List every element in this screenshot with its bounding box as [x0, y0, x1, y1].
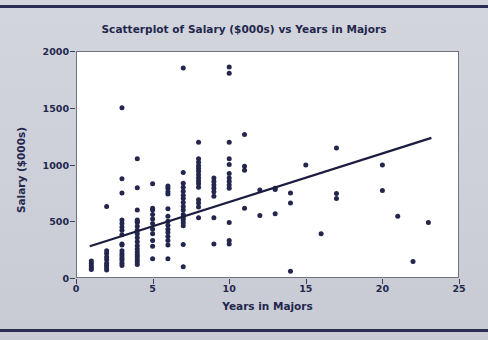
scatter-point	[181, 242, 186, 247]
scatter-point	[89, 267, 94, 272]
scatter-point	[242, 206, 247, 211]
scatter-point	[150, 206, 155, 211]
y-tick-label: 0	[29, 273, 69, 284]
scatter-point	[150, 244, 155, 249]
scatter-point	[303, 163, 308, 168]
scatter-point	[227, 220, 232, 225]
scatter-point	[104, 248, 109, 253]
y-tick-mark	[70, 51, 75, 52]
x-tick-mark	[306, 279, 307, 284]
scatter-point	[227, 176, 232, 181]
scatter-point	[395, 214, 400, 219]
x-tick-mark	[76, 279, 77, 284]
scatter-point	[181, 264, 186, 269]
scatter-point	[257, 213, 262, 218]
scatter-point	[196, 215, 201, 220]
scatter-point	[119, 218, 124, 223]
trendline	[90, 138, 432, 246]
bottom-divider-rule	[0, 329, 488, 332]
scatter-point	[135, 218, 140, 223]
x-tick-mark	[153, 279, 154, 284]
x-tick-label: 0	[56, 283, 96, 294]
x-tick-mark	[459, 279, 460, 284]
scatter-point	[380, 163, 385, 168]
scatter-point	[150, 181, 155, 186]
scatter-point	[196, 140, 201, 145]
x-tick-label: 25	[439, 283, 479, 294]
x-axis-tick-labels: 0510152025	[0, 283, 488, 299]
y-tick-mark	[70, 165, 75, 166]
scatter-point	[165, 214, 170, 219]
scatter-point	[135, 207, 140, 212]
x-tick-label: 20	[362, 283, 402, 294]
x-tick-mark	[382, 279, 383, 284]
scatter-point	[135, 185, 140, 190]
scatter-point	[334, 196, 339, 201]
x-axis-title: Years in Majors	[76, 300, 459, 312]
scatter-point	[380, 188, 385, 193]
scatter-point	[150, 231, 155, 236]
scatter-point	[165, 184, 170, 189]
scatter-point	[181, 181, 186, 186]
scatter-point	[181, 170, 186, 175]
chart-figure: Scatterplot of Salary ($000s) vs Years i…	[0, 0, 488, 340]
scatter-plot-canvas	[76, 51, 459, 278]
scatter-point	[150, 216, 155, 221]
scatter-point	[273, 211, 278, 216]
scatter-point	[150, 256, 155, 261]
y-axis-title: Salary ($000s)	[15, 100, 27, 240]
scatter-point	[227, 64, 232, 69]
scatter-point	[165, 243, 170, 248]
y-tick-label: 2000	[29, 46, 69, 57]
scatter-point	[227, 156, 232, 161]
scatter-point	[104, 204, 109, 209]
data-points-layer	[89, 64, 431, 273]
scatter-point	[119, 248, 124, 253]
scatter-point	[181, 66, 186, 71]
scatter-point	[196, 197, 201, 202]
scatter-point	[211, 194, 216, 199]
scatter-point	[242, 132, 247, 137]
scatter-point	[211, 241, 216, 246]
scatter-point	[334, 191, 339, 196]
scatter-point	[196, 156, 201, 161]
scatter-point	[119, 176, 124, 181]
y-tick-label: 1500	[29, 102, 69, 113]
scatter-point	[288, 201, 293, 206]
scatter-point	[242, 164, 247, 169]
scatter-point	[227, 140, 232, 145]
y-tick-mark	[70, 278, 75, 279]
x-tick-label: 10	[209, 283, 249, 294]
scatter-point	[119, 105, 124, 110]
scatter-point	[135, 156, 140, 161]
scatter-point	[150, 238, 155, 243]
scatter-point	[119, 190, 124, 195]
scatter-point	[227, 171, 232, 176]
scatter-point	[426, 220, 431, 225]
x-tick-label: 15	[286, 283, 326, 294]
x-tick-label: 5	[133, 283, 173, 294]
scatter-point	[319, 231, 324, 236]
scatter-point	[211, 176, 216, 181]
scatter-point	[411, 259, 416, 264]
scatter-point	[119, 241, 124, 246]
scatter-point	[288, 269, 293, 274]
scatter-point	[211, 215, 216, 220]
y-tick-label: 1000	[29, 159, 69, 170]
scatter-point	[227, 162, 232, 167]
scatter-point	[227, 71, 232, 76]
top-divider-rule	[0, 5, 488, 8]
scatter-point	[150, 212, 155, 217]
scatter-point	[165, 206, 170, 211]
scatter-point	[227, 238, 232, 243]
scatter-point	[165, 256, 170, 261]
x-tick-mark	[229, 279, 230, 284]
scatter-point	[334, 146, 339, 151]
y-tick-mark	[70, 221, 75, 222]
scatter-point	[89, 258, 94, 263]
y-tick-label: 500	[29, 216, 69, 227]
y-tick-mark	[70, 108, 75, 109]
page-title: Scatterplot of Salary ($000s) vs Years i…	[0, 23, 488, 35]
scatter-point	[288, 190, 293, 195]
